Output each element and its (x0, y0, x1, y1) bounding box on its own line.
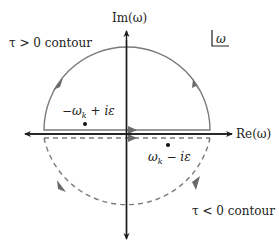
arrow-icon (128, 126, 137, 134)
upper-pole (83, 122, 87, 126)
lower-pole (166, 143, 170, 147)
arrow-icon (192, 79, 200, 92)
upper-pole-label: −ωk + iε (62, 104, 115, 120)
contour-diagram: ω Im(ω) Re(ω) τ > 0 contour τ < 0 contou… (0, 0, 279, 247)
arrow-icon (57, 180, 66, 192)
imag-axis-label: Im(ω) (112, 11, 147, 25)
arrow-icon (128, 134, 137, 142)
svg-text:ω: ω (216, 32, 226, 46)
omega-plane-marker: ω (212, 30, 229, 46)
real-axis-label: Re(ω) (236, 127, 271, 141)
arrow-icon (192, 176, 200, 190)
lower-pole-label: ωk − iε (148, 150, 191, 166)
upper-contour-label: τ > 0 contour (9, 36, 92, 50)
lower-contour-label: τ < 0 contour (192, 204, 275, 218)
